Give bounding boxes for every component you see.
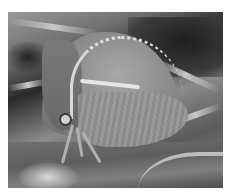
insect-eye bbox=[59, 113, 72, 126]
blurred-leaf bbox=[8, 18, 98, 36]
insect-photo bbox=[8, 12, 223, 188]
blurred-highlight bbox=[18, 162, 78, 188]
